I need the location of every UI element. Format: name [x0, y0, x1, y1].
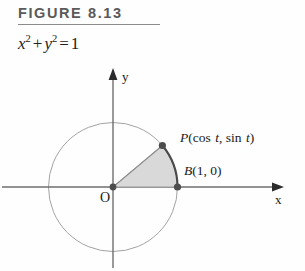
point-label-B-name: B	[184, 163, 192, 178]
x-axis-arrowhead-icon	[272, 182, 284, 191]
point-label-P-sin: sin	[226, 130, 242, 145]
unit-circle-diagram-svg	[0, 0, 305, 271]
point-marker-B	[174, 183, 181, 190]
point-label-P: P(cos t, sin t)	[180, 131, 254, 145]
point-label-P-comma: ,	[219, 130, 226, 145]
point-marker-P	[159, 142, 166, 149]
plot-area: P(cos t, sin t) B(1, 0) O y x	[0, 0, 305, 271]
point-marker-origin	[110, 184, 117, 191]
point-label-B: B(1, 0)	[184, 164, 222, 178]
point-label-P-close-paren: )	[250, 130, 255, 145]
y-axis-arrowhead-icon	[109, 68, 118, 80]
point-label-P-cos: cos	[193, 130, 211, 145]
figure-container: FIGURE 8.13 x2+y2=1	[0, 0, 305, 271]
point-label-P-name: P	[180, 130, 188, 145]
origin-label-O: O	[100, 191, 110, 205]
point-label-B-coords: (1, 0)	[192, 163, 221, 178]
x-axis-label: x	[275, 193, 282, 206]
y-axis-label: y	[122, 70, 129, 83]
